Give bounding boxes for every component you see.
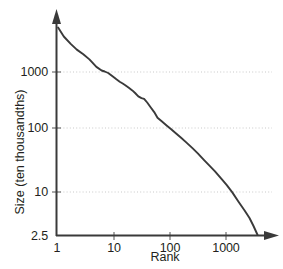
data-series-line — [58, 28, 258, 235]
gridlines — [57, 72, 272, 192]
x-axis-title: Rank — [150, 250, 179, 264]
y-axis — [52, 9, 61, 236]
x-tick-label-1000: 1000 — [212, 241, 239, 255]
chart-container: 1000 100 10 2.5 1 10 100 1000 Rank Size … — [0, 0, 283, 269]
x-axis — [56, 231, 279, 240]
x-tick-label-10: 10 — [107, 241, 121, 255]
x-tick-label-1: 1 — [54, 241, 61, 255]
y-axis-title: Size (ten thousandths) — [13, 62, 27, 242]
